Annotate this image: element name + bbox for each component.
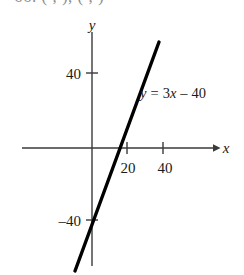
equation-x: x xyxy=(169,85,177,101)
equation-y: y xyxy=(138,85,147,101)
line-equation-label: y=3x–40 xyxy=(138,85,206,101)
x-axis-label: x xyxy=(222,140,230,156)
equation-slope: 3 xyxy=(163,85,170,101)
equation-intercept: 40 xyxy=(192,85,207,101)
y-tick-label-40: 40 xyxy=(66,66,81,82)
x-tick-label-40: 40 xyxy=(158,160,173,176)
graph-figure: 66. ( , ), ( , ) y x 40 –40 20 40 y=3x–4… xyxy=(0,0,244,275)
y-tick-label-minus-40: –40 xyxy=(58,213,82,229)
x-tick-label-20: 20 xyxy=(121,160,136,176)
equation-minus: – xyxy=(179,85,188,101)
x-axis-arrow-icon xyxy=(213,144,221,152)
coordinate-plot: y x 40 –40 20 40 y=3x–40 xyxy=(0,0,244,275)
equation-equals: = xyxy=(150,85,158,101)
plotted-line xyxy=(75,42,159,271)
y-axis-label: y xyxy=(87,17,96,33)
